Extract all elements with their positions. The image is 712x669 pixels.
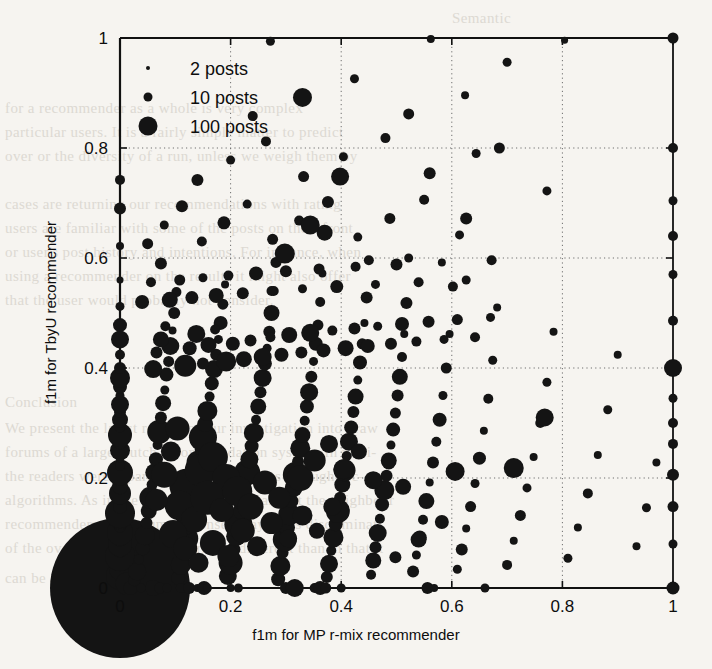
legend: 2 posts10 posts100 posts (139, 59, 269, 137)
data-point (486, 313, 495, 322)
data-point (633, 542, 641, 550)
data-point (294, 427, 310, 443)
data-point (392, 390, 404, 402)
data-point (603, 405, 612, 414)
y-tick-label: 0.8 (84, 139, 108, 158)
data-point (245, 335, 257, 347)
data-point (369, 541, 381, 553)
data-point (473, 452, 486, 465)
data-point (338, 340, 354, 356)
data-point (460, 212, 472, 224)
data-point (441, 363, 452, 374)
data-point (174, 355, 196, 377)
data-point (216, 351, 236, 371)
data-point (250, 399, 266, 415)
data-point (386, 441, 395, 450)
data-point (407, 566, 419, 578)
data-point (502, 560, 512, 570)
data-point (361, 292, 373, 304)
data-point (667, 582, 680, 595)
data-point (493, 304, 501, 312)
data-point (448, 282, 458, 292)
data-point (320, 435, 338, 453)
x-tick-label: 0 (115, 597, 124, 616)
data-point (667, 469, 679, 481)
data-point (189, 553, 209, 573)
data-point (515, 510, 526, 521)
data-point (452, 314, 463, 325)
data-point (266, 37, 275, 46)
data-point (141, 517, 153, 529)
data-point (364, 255, 374, 265)
data-point (563, 554, 572, 563)
data-point (144, 360, 162, 378)
data-point (244, 423, 264, 443)
data-point (668, 316, 678, 326)
data-point (483, 394, 493, 404)
y-tick-label: 1 (99, 29, 108, 48)
scatter-plot: 00.20.40.60.8100.20.40.60.812 posts10 po… (0, 0, 712, 669)
data-point (668, 439, 678, 449)
data-point (281, 327, 297, 343)
data-point (114, 362, 126, 374)
data-point (116, 302, 125, 311)
data-point (404, 254, 413, 263)
data-point (279, 530, 297, 548)
data-point (234, 584, 243, 593)
data-point (317, 343, 331, 357)
data-point (465, 501, 476, 512)
data-point (300, 383, 318, 401)
data-point (295, 347, 307, 359)
data-point (221, 280, 229, 288)
data-point (331, 168, 349, 186)
data-point (438, 258, 446, 266)
data-point (668, 418, 678, 428)
data-point (249, 266, 263, 280)
data-point (542, 378, 551, 387)
data-point (400, 297, 412, 309)
data-point (480, 584, 489, 593)
data-point (251, 415, 261, 425)
data-point (155, 258, 167, 270)
data-point (183, 582, 195, 594)
data-point (337, 584, 346, 593)
data-point (365, 553, 381, 569)
data-point (348, 389, 364, 405)
data-point (503, 58, 512, 67)
data-point (309, 357, 318, 366)
data-point (238, 494, 264, 520)
data-point (142, 238, 153, 249)
data-point (385, 338, 397, 350)
data-point (114, 203, 126, 215)
data-point (243, 200, 252, 209)
data-point (435, 515, 449, 529)
data-point (151, 462, 177, 488)
data-point (327, 326, 337, 336)
data-point (391, 259, 403, 271)
legend-marker-10-posts (144, 93, 153, 102)
data-point (153, 331, 169, 347)
data-point (390, 408, 401, 419)
data-point (292, 505, 312, 525)
data-point (523, 483, 532, 492)
data-point (453, 565, 462, 574)
legend-marker-2-posts (146, 66, 150, 70)
data-point (642, 503, 651, 512)
data-point (304, 449, 326, 471)
x-tick-label: 0.8 (551, 597, 575, 616)
data-point (163, 356, 174, 367)
data-point (237, 287, 249, 299)
data-point (384, 213, 395, 224)
data-point (364, 471, 382, 489)
data-point (210, 325, 220, 335)
data-point (431, 437, 441, 447)
data-point (155, 395, 171, 411)
data-point (339, 152, 348, 161)
data-point (669, 540, 678, 549)
data-point (440, 335, 449, 344)
data-point (200, 337, 216, 353)
x-axis-title: f1m for MP r-mix recommender (0, 626, 712, 643)
data-point (423, 316, 435, 328)
data-point (471, 479, 480, 488)
data-point (350, 74, 359, 83)
